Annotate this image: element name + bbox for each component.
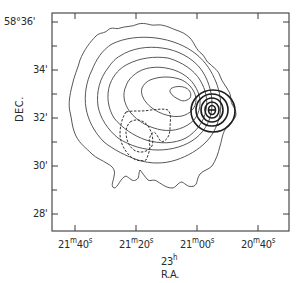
emission-peak-contour bbox=[170, 87, 191, 101]
x-tick-label-20m40s: 20m40s bbox=[241, 239, 275, 250]
y-tick-label-28: 28' bbox=[33, 208, 47, 219]
y-axis-ticks bbox=[52, 22, 289, 214]
x-axis-hour-label: 23h bbox=[161, 256, 177, 267]
x-tick-label-21m40s: 21m40s bbox=[58, 239, 92, 250]
dashed-component-contours bbox=[120, 109, 171, 161]
x-tick-label-21m00s: 21m00s bbox=[180, 239, 214, 250]
y-axis-title: DEC. bbox=[13, 96, 26, 122]
y-tick-label-32: 32' bbox=[33, 112, 47, 123]
x-axis-title: R.A. bbox=[161, 269, 179, 280]
y-tick-label-30: 30' bbox=[33, 160, 47, 171]
x-axis-ticks bbox=[75, 13, 258, 231]
compact-source-contours bbox=[191, 90, 235, 132]
y-tick-label-36: 58°36' bbox=[4, 16, 35, 27]
x-tick-label-21m20s: 21m20s bbox=[119, 239, 153, 250]
y-tick-label-34: 34' bbox=[33, 64, 47, 75]
